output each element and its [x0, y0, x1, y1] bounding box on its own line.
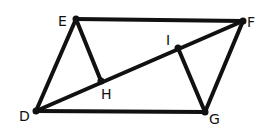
- label-F: F: [247, 14, 255, 30]
- point-E: [73, 16, 80, 23]
- segment-EH: [76, 19, 101, 81]
- point-I: [175, 45, 182, 52]
- label-E: E: [58, 13, 67, 29]
- label-I: I: [166, 32, 170, 48]
- geometry-diagram: E F I H D G: [0, 0, 271, 134]
- point-F: [240, 18, 247, 25]
- segment-GD: [36, 111, 205, 112]
- label-H: H: [101, 86, 112, 102]
- point-D: [33, 108, 40, 115]
- segment-EF: [76, 19, 243, 21]
- point-G: [202, 109, 209, 116]
- label-D: D: [19, 108, 30, 124]
- point-H: [98, 78, 105, 85]
- label-G: G: [209, 111, 220, 127]
- segment-GI: [178, 48, 205, 112]
